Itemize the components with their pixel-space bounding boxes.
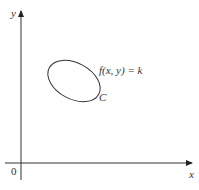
y-axis-label: y — [10, 7, 16, 19]
origin-label: 0 — [11, 165, 17, 177]
level-curve-c — [41, 52, 107, 110]
level-curve-diagram: y x 0 f(x, y) = k C — [0, 0, 199, 190]
x-axis-label: x — [188, 168, 194, 180]
curve-name-label: C — [99, 91, 107, 103]
curve-equation-label: f(x, y) = k — [99, 64, 144, 77]
